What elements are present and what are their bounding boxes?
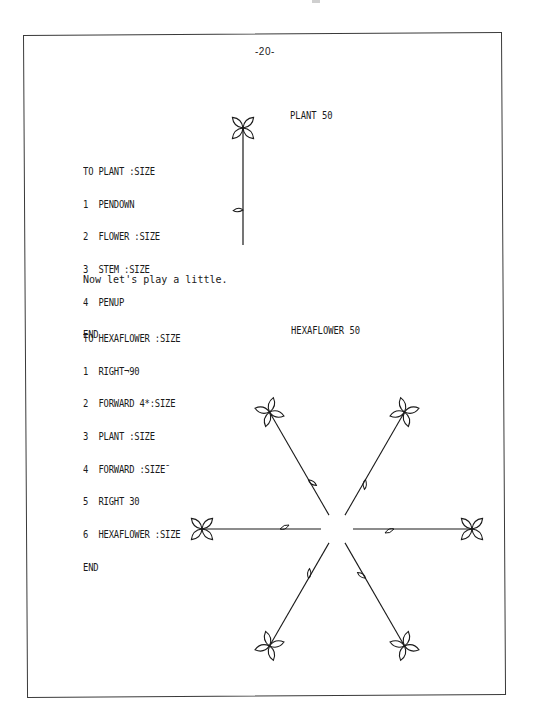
hexaflower-figure-drawing [189,395,484,664]
turtle-graphics-drawings [0,0,553,719]
plant-figure-drawing [230,115,255,245]
